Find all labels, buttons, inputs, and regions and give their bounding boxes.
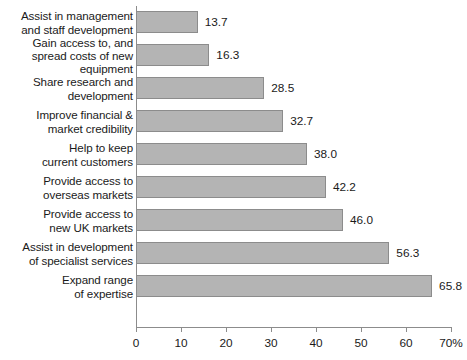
- bar-rows-container: Assist in management and staff developme…: [0, 6, 467, 303]
- bar-row: Assist in management and staff developme…: [0, 6, 467, 39]
- category-label: Assist in development of specialist serv…: [0, 237, 133, 270]
- bar-value-label: 56.3: [389, 242, 419, 264]
- bar-track: 28.5: [136, 72, 467, 105]
- bar-row: Provide access to new UK markets46.0: [0, 204, 467, 237]
- bar-track: 65.8: [136, 270, 467, 303]
- x-axis-tick-label: 10: [174, 336, 187, 350]
- bar-track: 42.2: [136, 171, 467, 204]
- bar: [136, 11, 198, 33]
- bar-row: Expand range of expertise65.8: [0, 270, 467, 303]
- bar-value-label: 38.0: [307, 143, 337, 165]
- bar: [136, 143, 307, 165]
- x-axis-tick-label: 70%: [439, 336, 463, 350]
- bar-row: Gain access to, and spread costs of new …: [0, 39, 467, 72]
- bar-row: Assist in development of specialist serv…: [0, 237, 467, 270]
- x-axis-tick-label: 60: [399, 336, 412, 350]
- bar: [136, 44, 209, 66]
- bar-row: Help to keep current customers38.0: [0, 138, 467, 171]
- bar-track: 13.7: [136, 6, 467, 39]
- horizontal-bar-chart: Assist in management and staff developme…: [0, 0, 467, 360]
- category-label: Gain access to, and spread costs of new …: [0, 39, 133, 72]
- y-axis-line: [136, 6, 137, 330]
- x-axis-tick-label: 40: [309, 336, 322, 350]
- category-label: Provide access to overseas markets: [0, 171, 133, 204]
- bar-row: Provide access to overseas markets42.2: [0, 171, 467, 204]
- bar-value-label: 65.8: [432, 275, 462, 297]
- bar-value-label: 28.5: [264, 77, 294, 99]
- x-axis-tick-label: 50: [354, 336, 367, 350]
- bar-track: 46.0: [136, 204, 467, 237]
- bar-value-label: 13.7: [198, 11, 228, 33]
- bar-value-label: 46.0: [343, 209, 373, 231]
- bar-track: 32.7: [136, 105, 467, 138]
- x-axis-tick-label: 0: [133, 336, 140, 350]
- bar: [136, 77, 264, 99]
- x-axis-tick: [406, 327, 407, 332]
- x-axis-tick: [361, 327, 362, 332]
- x-axis-tick: [271, 327, 272, 332]
- x-axis-tick-label: 30: [264, 336, 277, 350]
- x-axis-tick: [316, 327, 317, 332]
- bar-track: 38.0: [136, 138, 467, 171]
- bar: [136, 176, 326, 198]
- bar: [136, 275, 432, 297]
- bar-row: Share research and development28.5: [0, 72, 467, 105]
- category-label: Help to keep current customers: [0, 138, 133, 171]
- category-label: Provide access to new UK markets: [0, 204, 133, 237]
- bar: [136, 110, 283, 132]
- bar-value-label: 32.7: [283, 110, 313, 132]
- bar-track: 56.3: [136, 237, 467, 270]
- x-axis-tick: [181, 327, 182, 332]
- bar-value-label: 42.2: [326, 176, 356, 198]
- bar: [136, 242, 389, 264]
- bar-row: Improve financial & market credibility32…: [0, 105, 467, 138]
- x-axis-tick: [136, 327, 137, 332]
- x-axis-tick-label: 20: [219, 336, 232, 350]
- category-label: Improve financial & market credibility: [0, 105, 133, 138]
- bar-value-label: 16.3: [209, 44, 239, 66]
- category-label: Expand range of expertise: [0, 270, 133, 303]
- category-label: Assist in management and staff developme…: [0, 6, 133, 39]
- x-axis-tick: [226, 327, 227, 332]
- x-axis-line: [136, 327, 451, 328]
- bar-track: 16.3: [136, 39, 467, 72]
- x-axis-tick: [451, 327, 452, 332]
- category-label: Share research and development: [0, 72, 133, 105]
- bar: [136, 209, 343, 231]
